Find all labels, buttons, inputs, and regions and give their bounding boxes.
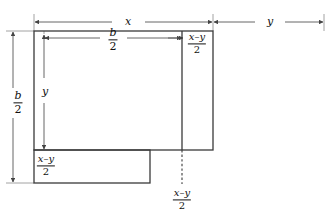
dimension-lines [13,22,323,182]
geometry-diagram: x y b 2 b 2 y x–y 2 x–y 2 x–y 2 [0,0,334,222]
label-height-b-half: b 2 [13,90,22,115]
figure-outlines [34,31,213,183]
label-height-b-half-numerator: b [13,90,22,102]
label-inner-width-b-half-numerator: b [108,27,117,39]
label-inner-width-b-half-denominator: 2 [108,41,117,53]
label-bottom-right-strip-numerator: x–y [173,188,191,199]
label-right-strip-width: x–y 2 [188,32,206,55]
label-width-remainder: y [267,16,273,27]
label-inner-height-y: y [42,86,48,97]
label-width-total: x [125,16,131,27]
diagram-canvas [0,0,334,222]
label-bottom-strip-numerator: x–y [37,154,55,165]
label-right-strip-denominator: 2 [188,45,206,56]
label-bottom-strip-denominator: 2 [37,167,55,178]
label-bottom-right-strip-denominator: 2 [173,201,191,212]
label-height-b-half-denominator: 2 [13,104,22,116]
label-bottom-right-strip: x–y 2 [173,188,191,211]
label-bottom-strip-height: x–y 2 [37,154,55,177]
main-rectangle [34,31,213,150]
label-inner-width-b-half: b 2 [108,27,117,52]
label-right-strip-numerator: x–y [188,32,206,43]
